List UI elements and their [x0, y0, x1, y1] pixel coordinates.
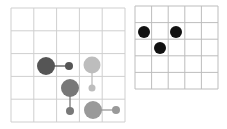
piece-gray-small: [112, 106, 120, 114]
piece-light-large: [84, 57, 101, 74]
piece-gray-large: [84, 101, 102, 119]
piece-dark-small: [65, 62, 73, 70]
piece-mid-small: [66, 107, 74, 115]
diagram-canvas: [0, 0, 227, 129]
right-grid-board: [135, 6, 218, 89]
piece-dark-large: [37, 57, 55, 75]
piece-black-3: [154, 42, 166, 54]
piece-light-small: [89, 85, 96, 92]
piece-black-2: [170, 26, 182, 38]
piece-mid-large: [61, 79, 79, 97]
piece-black-1: [138, 26, 150, 38]
left-grid-board: [11, 8, 125, 122]
